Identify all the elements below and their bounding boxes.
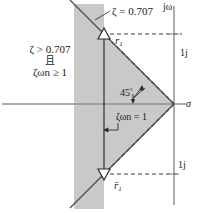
imaginary-axis-label: jω bbox=[163, 2, 172, 12]
damping-line-label: ζ = 0.707 bbox=[112, 6, 153, 17]
angle-unit: ° bbox=[130, 87, 132, 94]
pole-label-r1-conjugate-subscript: 1 bbox=[118, 185, 121, 192]
s-plane-figure: ζ = 0.707 ζ > 0.707 且 ζωn ≥ 1 r1 r̄1 1j … bbox=[0, 0, 200, 213]
angle-value: 45 bbox=[120, 87, 130, 98]
region-condition-line-1: ζ > 0.707 bbox=[14, 44, 86, 55]
region-condition-label: ζ > 0.707 且 ζωn ≥ 1 bbox=[14, 43, 86, 79]
shaded-region bbox=[74, 4, 174, 209]
angle-label: 45° bbox=[120, 88, 132, 98]
shaded-region-group bbox=[74, 4, 174, 209]
real-axis-label: σ bbox=[186, 99, 191, 109]
imag-tick-label-upper: 1j bbox=[180, 48, 188, 58]
pole-label-r1: r1 bbox=[115, 35, 123, 47]
figure-canvas bbox=[0, 0, 200, 213]
region-condition-conjunction: 且 bbox=[14, 56, 86, 66]
imag-tick-label-lower: 1j bbox=[178, 160, 186, 170]
pole-label-r1-conjugate: r̄1 bbox=[114, 180, 122, 192]
region-condition-line-3: ζωn ≥ 1 bbox=[14, 67, 86, 78]
pole-label-r1-subscript: 1 bbox=[119, 40, 122, 47]
sigma-constraint-label: ζωn = 1 bbox=[116, 112, 147, 122]
